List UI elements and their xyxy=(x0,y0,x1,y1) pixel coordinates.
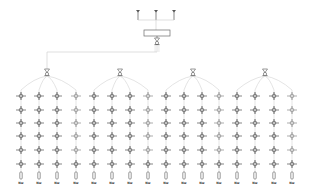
node-icon xyxy=(71,146,81,154)
node-icon xyxy=(89,119,99,127)
device-column: Nw xyxy=(125,90,135,185)
group-hub-icon xyxy=(263,69,268,76)
group-hub-icon xyxy=(45,69,50,76)
branch-link xyxy=(39,76,47,90)
node-icon xyxy=(269,92,279,100)
node-icon xyxy=(197,160,207,168)
end-device-icon xyxy=(111,172,113,179)
node-icon xyxy=(214,119,224,127)
node-icon xyxy=(89,92,99,100)
end-device-icon xyxy=(20,172,22,179)
node-icon xyxy=(269,106,279,114)
node-icon xyxy=(71,106,81,114)
node-icon xyxy=(250,92,260,100)
node-icon xyxy=(287,160,297,168)
node-icon xyxy=(214,132,224,140)
node-icon xyxy=(161,132,171,140)
node-icon xyxy=(71,160,81,168)
node-icon xyxy=(71,119,81,127)
device-column: Nw xyxy=(232,90,242,185)
node-icon xyxy=(179,132,189,140)
node-icon xyxy=(179,92,189,100)
node-icon xyxy=(161,119,171,127)
antenna-group xyxy=(136,10,176,30)
node-icon xyxy=(250,106,260,114)
node-icon xyxy=(197,92,207,100)
end-device-icon xyxy=(183,172,185,179)
device-column: Nw xyxy=(52,90,62,185)
device-column: Nw xyxy=(214,90,224,185)
branch-link xyxy=(166,76,193,90)
node-icon xyxy=(34,106,44,114)
node-icon xyxy=(179,146,189,154)
branch-link xyxy=(47,76,76,90)
node-icon xyxy=(107,160,117,168)
node-icon xyxy=(34,92,44,100)
column-label: Nw xyxy=(199,181,205,185)
node-icon xyxy=(143,160,153,168)
node-icon xyxy=(287,146,297,154)
end-device-icon xyxy=(147,172,149,179)
node-icon xyxy=(52,146,62,154)
node-icon xyxy=(52,106,62,114)
node-icon xyxy=(214,146,224,154)
node-icon xyxy=(125,119,135,127)
end-device-icon xyxy=(38,172,40,179)
node-icon xyxy=(161,106,171,114)
node-icon xyxy=(34,119,44,127)
controller-box xyxy=(144,30,170,36)
antenna-icon xyxy=(136,10,140,20)
node-icon xyxy=(161,92,171,100)
device-column: Nw xyxy=(269,90,279,185)
column-label: Nw xyxy=(91,181,97,185)
node-icon xyxy=(52,119,62,127)
end-device-icon xyxy=(236,172,238,179)
node-icon xyxy=(143,119,153,127)
node-icon xyxy=(269,132,279,140)
node-icon xyxy=(107,119,117,127)
column-label: Nw xyxy=(234,181,240,185)
column-label: Nw xyxy=(289,181,295,185)
node-icon xyxy=(34,132,44,140)
node-icon xyxy=(250,119,260,127)
device-column: Nw xyxy=(179,90,189,185)
node-icon xyxy=(250,132,260,140)
device-column: Nw xyxy=(71,90,81,185)
node-icon xyxy=(125,132,135,140)
node-icon xyxy=(287,106,297,114)
node-icon xyxy=(269,146,279,154)
device-column: Nw xyxy=(143,90,153,185)
column-label: Nw xyxy=(127,181,133,185)
node-icon xyxy=(269,160,279,168)
branch-link xyxy=(112,76,120,90)
node-icon xyxy=(214,106,224,114)
group-hub-icon xyxy=(118,69,123,76)
end-device-icon xyxy=(254,172,256,179)
node-icon xyxy=(71,132,81,140)
node-icon xyxy=(16,146,26,154)
node-icon xyxy=(179,106,189,114)
node-icon xyxy=(232,106,242,114)
node-icon xyxy=(107,146,117,154)
column-label: Nw xyxy=(54,181,60,185)
branch-link xyxy=(21,76,47,90)
end-device-icon xyxy=(218,172,220,179)
node-icon xyxy=(179,119,189,127)
device-column: Nw xyxy=(107,90,117,185)
node-icon xyxy=(161,160,171,168)
column-label: Nw xyxy=(145,181,151,185)
antenna-icon xyxy=(154,10,158,20)
node-icon xyxy=(125,160,135,168)
node-icon xyxy=(197,106,207,114)
branch-link xyxy=(120,76,148,90)
network-diagram: NwNwNwNwNwNwNwNwNwNwNwNwNwNwNwNw xyxy=(0,0,312,196)
node-icon xyxy=(287,119,297,127)
node-icon xyxy=(143,92,153,100)
node-icon xyxy=(269,119,279,127)
node-icon xyxy=(232,119,242,127)
node-icon xyxy=(34,146,44,154)
node-icon xyxy=(125,106,135,114)
end-device-icon xyxy=(93,172,95,179)
node-icon xyxy=(287,132,297,140)
end-device-icon xyxy=(165,172,167,179)
